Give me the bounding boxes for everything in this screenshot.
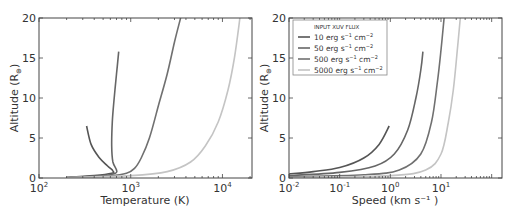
right-xlabel: Speed (km s⁻¹ ) — [352, 194, 439, 207]
ytick-label: 10 — [22, 92, 36, 105]
xtick-label: 102 — [30, 181, 48, 195]
ytick-label: 10 — [272, 92, 286, 105]
temperature-series-3 — [67, 18, 240, 178]
ytick-label: 15 — [22, 52, 36, 65]
legend-entry-label: 50 erg s−1 cm−2 — [314, 43, 373, 53]
figure: 05101520102103104 Temperature (K) Altitu… — [0, 0, 512, 213]
xtick-label: 104 — [213, 181, 232, 195]
left-xlabel: Temperature (K) — [100, 194, 190, 207]
legend: INPUT XUV FLUX 10 erg s−1 cm−250 erg s−1… — [293, 20, 387, 75]
left-ylabel: Altitude (R⊕) — [8, 64, 23, 133]
left-axes-frame — [39, 18, 252, 178]
temperature-curves — [67, 18, 240, 178]
speed-panel: 0510152010-210-1100101 Speed (km s⁻¹ ) A… — [258, 12, 502, 207]
legend-title: INPUT XUV FLUX — [314, 24, 359, 30]
ytick-label: 5 — [279, 132, 286, 145]
xtick-label: 10-1 — [329, 181, 350, 195]
temperature-series-1 — [67, 52, 119, 178]
legend-entry-label: 5000 erg s−1 cm−2 — [314, 65, 383, 75]
ytick-label: 5 — [29, 132, 36, 145]
xtick-label: 101 — [432, 181, 450, 195]
xtick-label: 100 — [381, 181, 399, 195]
temperature-series-0 — [67, 126, 114, 178]
ytick-label: 20 — [22, 12, 36, 25]
left-ticks: 05101520102103104 — [22, 12, 252, 195]
temperature-panel: 05101520102103104 Temperature (K) Altitu… — [8, 12, 252, 207]
right-ylabel: Altitude (R⊕) — [258, 64, 273, 133]
ytick-label: 15 — [272, 52, 286, 65]
legend-entry-label: 10 erg s−1 cm−2 — [314, 32, 373, 42]
legend-entry-label: 500 erg s−1 cm−2 — [314, 54, 378, 64]
xtick-label: 10-2 — [279, 181, 300, 195]
xtick-label: 103 — [121, 181, 139, 195]
ytick-label: 20 — [272, 12, 286, 25]
temperature-series-2 — [67, 18, 181, 178]
